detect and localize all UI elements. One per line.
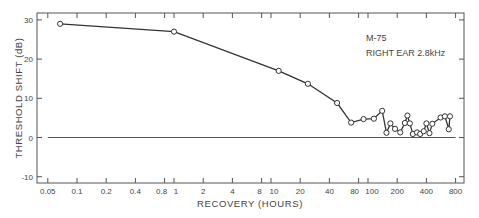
data-series — [58, 21, 453, 136]
data-point-marker — [446, 127, 451, 132]
annotation-line-2: RIGHT EAR 2.8kHz — [366, 48, 446, 58]
data-point-marker — [424, 121, 429, 126]
data-point-marker — [171, 29, 176, 34]
x-tick-label: 0.4 — [130, 187, 142, 196]
x-tick-label: 0.8 — [156, 187, 168, 196]
data-point-marker — [58, 21, 63, 26]
x-tick-label: 40 — [325, 187, 334, 196]
y-tick-label: 30 — [24, 16, 33, 25]
data-point-marker — [371, 116, 376, 121]
x-tick-label: 200 — [391, 187, 405, 196]
x-tick-label: 8 — [257, 187, 262, 196]
y-axis-label: THRESHOLD SHIFT (dB) — [13, 37, 24, 158]
data-point-marker — [380, 108, 385, 113]
data-point-marker — [384, 130, 389, 135]
x-tick-label: 400 — [420, 187, 434, 196]
plot-axes: 0.050.10.20.40.8124810204080100200400800… — [21, 13, 464, 196]
x-tick-label: 2 — [201, 187, 206, 196]
data-point-marker — [276, 68, 281, 73]
data-point-marker — [398, 130, 403, 135]
x-tick-label: 4 — [230, 187, 235, 196]
data-point-marker — [427, 131, 432, 136]
series-line — [60, 24, 450, 134]
x-axis-label: RECOVERY (HOURS) — [197, 198, 303, 209]
threshold-shift-chart: 0.050.10.20.40.8124810204080100200400800… — [0, 0, 479, 218]
y-tick-label: 0 — [29, 134, 34, 143]
annotation-line-1: M-75 — [366, 33, 387, 43]
data-point-marker — [421, 129, 426, 134]
x-tick-label: 1 — [174, 187, 179, 196]
x-tick-label: 0.1 — [71, 187, 83, 196]
data-point-marker — [430, 121, 435, 126]
y-tick-label: 20 — [24, 55, 33, 64]
y-tick-label: -10 — [21, 173, 33, 182]
data-point-marker — [407, 121, 412, 126]
data-point-marker — [305, 81, 310, 86]
data-point-marker — [405, 113, 410, 118]
data-point-marker — [447, 114, 452, 119]
x-tick-label: 10 — [270, 187, 279, 196]
y-tick-label: 10 — [24, 94, 33, 103]
x-tick-label: 0.2 — [101, 187, 113, 196]
x-tick-label: 0.05 — [40, 187, 56, 196]
data-point-marker — [361, 116, 366, 121]
data-point-marker — [442, 114, 447, 119]
x-tick-label: 20 — [296, 187, 305, 196]
x-tick-label: 100 — [365, 187, 379, 196]
data-point-marker — [402, 120, 407, 125]
data-point-marker — [392, 126, 397, 131]
data-point-marker — [334, 100, 339, 105]
x-tick-label: 800 — [449, 187, 463, 196]
data-point-marker — [349, 120, 354, 125]
data-point-marker — [388, 121, 393, 126]
plot-frame — [37, 13, 464, 183]
x-tick-label: 80 — [350, 187, 359, 196]
